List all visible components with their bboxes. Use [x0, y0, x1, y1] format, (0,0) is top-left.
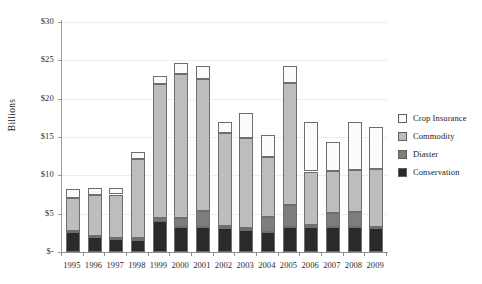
bar-segment-crop-insurance: [153, 76, 167, 84]
legend-item-label: Commodity: [413, 130, 455, 142]
bar-segment-diaster: [196, 211, 210, 227]
bar-segment-commodity: [369, 169, 383, 227]
legend-swatch-icon: [398, 150, 407, 159]
bar-segment-crop-insurance: [326, 142, 340, 171]
bar-segment-diaster: [218, 226, 232, 228]
bar-segment-crop-insurance: [283, 66, 297, 84]
y-axis-tick: $5: [0, 214, 62, 215]
x-axis-labels: 1995199619971998199920002001200220032004…: [61, 258, 388, 274]
legend-swatch-icon: [398, 114, 407, 123]
y-axis-tick-label: $5: [45, 207, 54, 220]
y-axis-tick-label: $20: [41, 92, 54, 105]
bar-1998[interactable]: [131, 22, 145, 252]
bar-segment-crop-insurance: [109, 188, 123, 195]
bar-segment-commodity: [66, 198, 80, 232]
bar-segment-diaster: [261, 217, 275, 232]
bar-2003[interactable]: [239, 22, 253, 252]
y-axis-tick: $20: [0, 99, 62, 100]
bar-segment-diaster: [153, 218, 167, 221]
bar-segment-diaster: [283, 205, 297, 227]
bar-2006[interactable]: [304, 22, 318, 252]
bar-segment-commodity: [326, 171, 340, 213]
bar-segment-conservation: [109, 239, 123, 252]
bar-2001[interactable]: [196, 22, 210, 252]
x-axis-tick-mark: [256, 252, 257, 256]
legend-item-conservation[interactable]: Conservation: [398, 164, 482, 180]
y-axis-tick-mark: [58, 175, 62, 176]
bar-segment-crop-insurance: [88, 188, 102, 195]
legend-item-diaster[interactable]: Diaster: [398, 146, 482, 162]
bar-segment-crop-insurance: [131, 152, 145, 160]
bar-segment-crop-insurance: [369, 127, 383, 169]
bar-segment-conservation: [196, 227, 210, 252]
bar-segment-conservation: [283, 227, 297, 252]
y-axis-tick-mark: [58, 214, 62, 215]
bar-1995[interactable]: [66, 22, 80, 252]
y-axis-tick: $15: [0, 137, 62, 138]
x-axis-tick-mark: [278, 252, 279, 256]
bar-segment-conservation: [304, 227, 318, 252]
y-axis-tick-mark: [58, 137, 62, 138]
y-axis-tick-mark: [58, 99, 62, 100]
y-axis-tick-label: $30: [41, 15, 54, 28]
bar-segment-crop-insurance: [174, 63, 188, 75]
bar-segment-diaster: [66, 231, 80, 233]
bar-segment-crop-insurance: [196, 66, 210, 78]
y-axis-tick: $25: [0, 60, 62, 61]
bar-2007[interactable]: [326, 22, 340, 252]
bar-segment-crop-insurance: [218, 122, 232, 134]
bar-segment-conservation: [348, 227, 362, 252]
legend-swatch-icon: [398, 132, 407, 141]
y-axis-tick-mark: [58, 60, 62, 61]
y-axis-tick: $30: [0, 22, 62, 23]
bar-segment-commodity: [109, 195, 123, 239]
bar-segment-diaster: [109, 238, 123, 240]
bar-2004[interactable]: [261, 22, 275, 252]
plot-area: [62, 22, 387, 252]
y-axis-tick-label: $25: [41, 53, 54, 66]
bars-layer: [62, 22, 387, 252]
y-axis-title: Billions: [2, 0, 22, 230]
bar-segment-crop-insurance: [304, 122, 318, 172]
bar-segment-conservation: [174, 227, 188, 252]
bar-2008[interactable]: [348, 22, 362, 252]
bar-segment-diaster: [88, 236, 102, 238]
bar-segment-conservation: [153, 221, 167, 252]
x-axis-tick-mark: [148, 252, 149, 256]
bar-segment-commodity: [196, 79, 210, 212]
bar-segment-diaster: [239, 228, 253, 230]
legend-item-commodity[interactable]: Commodity: [398, 128, 482, 144]
bar-2009[interactable]: [369, 22, 383, 252]
bar-segment-crop-insurance: [239, 113, 253, 138]
bar-segment-commodity: [218, 133, 232, 226]
y-axis-tick-label: $15: [41, 130, 54, 143]
bar-segment-diaster: [174, 218, 188, 227]
bar-1997[interactable]: [109, 22, 123, 252]
bar-1999[interactable]: [153, 22, 167, 252]
x-axis-tick-mark: [104, 252, 105, 256]
legend-item-crop-insurance[interactable]: Crop Insurance: [398, 110, 482, 126]
x-axis-tick-mark: [321, 252, 322, 256]
bar-2005[interactable]: [283, 22, 297, 252]
y-axis-tick-label: $10: [41, 168, 54, 181]
bar-segment-conservation: [66, 232, 80, 252]
bar-2002[interactable]: [218, 22, 232, 252]
bar-segment-commodity: [88, 195, 102, 236]
bar-segment-crop-insurance: [348, 122, 362, 170]
y-axis-title-text: Billions: [7, 99, 17, 132]
x-axis-label-2009: 2009: [360, 258, 390, 272]
x-axis-tick-mark: [234, 252, 235, 256]
bar-segment-conservation: [369, 228, 383, 252]
x-axis-tick-mark: [83, 252, 84, 256]
bar-2000[interactable]: [174, 22, 188, 252]
x-axis-tick-mark: [364, 252, 365, 256]
x-axis-tick-mark: [169, 252, 170, 256]
y-axis-tick-label: $-: [47, 245, 54, 258]
bar-1996[interactable]: [88, 22, 102, 252]
x-axis-tick-mark: [343, 252, 344, 256]
x-axis-tick-mark: [191, 252, 192, 256]
stacked-bar-chart: Billions $-$5$10$15$20$25$30 19951996199…: [0, 0, 482, 284]
legend-swatch-icon: [398, 168, 407, 177]
bar-segment-commodity: [131, 159, 145, 238]
x-axis-tick-mark: [213, 252, 214, 256]
